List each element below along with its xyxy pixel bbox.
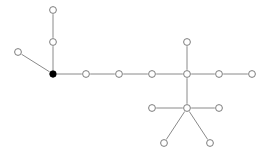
node-lower-hub-left[interactable] [149, 105, 156, 112]
node-chain-4[interactable] [216, 71, 223, 78]
graph-svg [0, 0, 272, 160]
node-chain-1[interactable] [83, 71, 90, 78]
edge-layer [22, 14, 248, 139]
node-chain-end[interactable] [249, 71, 256, 78]
node-top-branch-end[interactable] [50, 7, 57, 14]
node-left-branch-end[interactable] [15, 49, 22, 56]
node-lower-leaf-left[interactable] [161, 140, 168, 147]
node-chain-3[interactable] [149, 71, 156, 78]
node-lower-leaf-right[interactable] [207, 140, 214, 147]
graph-edge [189, 112, 207, 140]
graph-edge [166, 112, 184, 140]
node-lower-hub[interactable] [184, 105, 191, 112]
graph-edge [22, 54, 50, 72]
node-layer [15, 7, 256, 147]
node-chain-2[interactable] [116, 71, 123, 78]
node-top-branch-mid[interactable] [50, 39, 57, 46]
graph-canvas [0, 0, 272, 160]
node-upper-hub[interactable] [184, 71, 191, 78]
node-lower-hub-right[interactable] [216, 105, 223, 112]
node-upper-hub-top[interactable] [184, 39, 191, 46]
node-highlighted-hub[interactable] [50, 71, 56, 77]
